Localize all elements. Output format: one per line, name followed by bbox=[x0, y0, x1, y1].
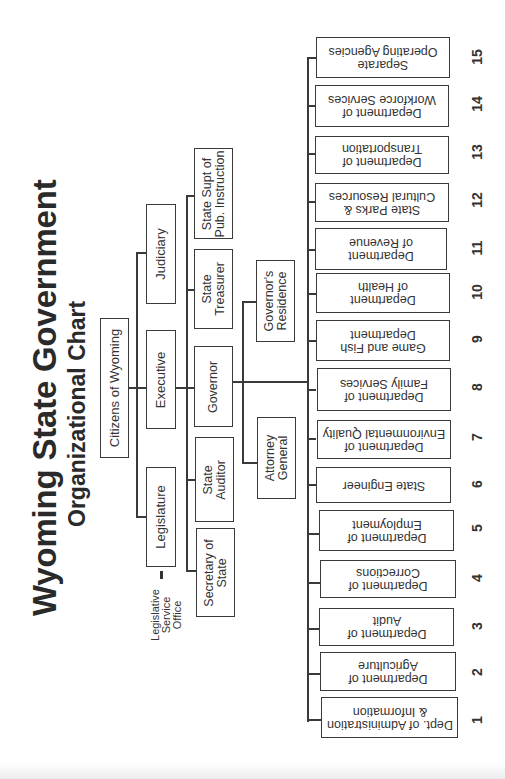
department-number: 6 bbox=[467, 472, 487, 496]
department-label: Department of Audit bbox=[347, 614, 426, 640]
page-bottom-shadow bbox=[0, 762, 505, 779]
department-3: Department of Audit bbox=[319, 608, 454, 646]
node-state-auditor: State Auditor bbox=[195, 437, 234, 522]
connector-attorney-general bbox=[242, 462, 257, 464]
connector-dept-15 bbox=[307, 57, 316, 59]
department-number: 9 bbox=[467, 327, 487, 351]
node-executive: Executive bbox=[146, 330, 176, 429]
department-label: Department of Transportation bbox=[342, 142, 422, 168]
node-label: Secretary of State bbox=[202, 539, 228, 606]
department-number: 13 bbox=[467, 140, 487, 164]
department-label: Department of Employment bbox=[347, 517, 426, 543]
node-secretary-of-state: Secretary of State bbox=[196, 528, 235, 617]
legislative-service-office-label: Legislative Service Office bbox=[150, 589, 183, 641]
connector-dept-8 bbox=[307, 389, 316, 391]
department-2: Department of Agriculture bbox=[320, 652, 456, 691]
branch-spine bbox=[136, 252, 138, 518]
connector-dept-6 bbox=[307, 484, 316, 486]
connector-dept-1 bbox=[307, 719, 321, 721]
connector-dept-10 bbox=[307, 293, 316, 295]
officials-spine bbox=[186, 195, 188, 572]
department-8: Department of Family Services bbox=[317, 368, 451, 411]
department-10: Department of Health bbox=[316, 273, 450, 313]
node-label: Governor's Residence bbox=[262, 271, 288, 332]
department-9: Game and Fish Department bbox=[316, 320, 450, 361]
connector-dept-7 bbox=[307, 438, 316, 440]
department-label: Department of Agriculture bbox=[348, 658, 427, 684]
department-label: Department of Family Services bbox=[340, 376, 428, 402]
connector-dept-3 bbox=[307, 628, 319, 630]
legislature-lso-dash bbox=[160, 571, 163, 579]
department-6: State Engineer bbox=[316, 467, 451, 503]
node-state-treasurer: State Treasurer bbox=[194, 249, 233, 329]
node-label: State Supt of Pub. Instruction bbox=[200, 150, 226, 237]
node-label: State Auditor bbox=[201, 460, 227, 500]
department-11: Department of Revenue bbox=[315, 228, 447, 270]
node-label: Citizens of Wyoming bbox=[108, 329, 122, 447]
chart-subtitle: Organizational Chart bbox=[64, 301, 91, 527]
department-label: Department of Environmental Quality bbox=[323, 426, 445, 452]
node-label: Governor bbox=[207, 360, 220, 412]
department-5: Department of Employment bbox=[319, 510, 454, 551]
department-label: Separate Operating Agencies bbox=[328, 44, 437, 70]
department-label: Game and Fish Department bbox=[340, 327, 425, 353]
department-label: Department of Health bbox=[350, 280, 415, 306]
department-number: 7 bbox=[467, 425, 487, 449]
node-label: Legislature bbox=[154, 485, 168, 549]
governor-staff-spine bbox=[242, 301, 244, 464]
connector-judiciary bbox=[136, 252, 146, 254]
department-7: Department of Environmental Quality bbox=[317, 420, 451, 459]
department-label: Department of Revenue bbox=[348, 236, 413, 262]
node-governors-residence: Governor's Residence bbox=[256, 260, 295, 342]
department-12: State Parks & Cultural Resources bbox=[315, 183, 449, 222]
connector-state-auditor bbox=[186, 479, 195, 481]
department-1: Dept. of Administration & Information bbox=[321, 697, 458, 738]
department-label: State Engineer bbox=[342, 478, 425, 491]
connector-dept-4 bbox=[307, 582, 320, 584]
node-judiciary: Judiciary bbox=[146, 204, 176, 304]
department-label: Dept. of Administration & Information bbox=[327, 704, 453, 730]
department-15: Separate Operating Agencies bbox=[316, 37, 450, 78]
department-number: 11 bbox=[467, 236, 487, 260]
node-label: State Treasurer bbox=[200, 262, 226, 316]
department-number: 14 bbox=[467, 92, 487, 116]
chart-title: Wyoming State Government bbox=[26, 180, 64, 617]
node-label: Judiciary bbox=[154, 228, 168, 279]
department-number: 3 bbox=[467, 614, 487, 638]
department-number: 2 bbox=[467, 660, 487, 684]
node-state-supt-pub-instruction: State Supt of Pub. Instruction bbox=[194, 148, 233, 239]
node-citizens-of-wyoming: Citizens of Wyoming bbox=[100, 318, 129, 458]
department-14: Department of Workforce Services bbox=[315, 85, 449, 127]
department-number: 4 bbox=[467, 566, 487, 590]
connector-dept-2 bbox=[307, 673, 320, 675]
department-number: 12 bbox=[467, 188, 487, 212]
department-label: Department of Corrections bbox=[348, 566, 427, 592]
department-number: 5 bbox=[467, 516, 487, 540]
node-legislature: Legislature bbox=[146, 467, 176, 567]
department-number: 8 bbox=[467, 375, 487, 399]
connector-secretary-of-state bbox=[186, 570, 196, 572]
connector-dept-5 bbox=[307, 533, 319, 535]
node-governor: Governor bbox=[194, 346, 233, 427]
connector-dept-9 bbox=[307, 340, 316, 342]
department-4: Department of Corrections bbox=[320, 560, 456, 598]
department-number: 1 bbox=[467, 708, 487, 732]
department-number: 10 bbox=[467, 280, 487, 304]
node-label: Executive bbox=[154, 351, 168, 407]
department-label: State Parks & Cultural Resources bbox=[329, 189, 435, 215]
department-13: Department of Transportation bbox=[315, 136, 449, 174]
node-attorney-general: Attorney General bbox=[257, 417, 296, 499]
department-number: 15 bbox=[467, 45, 487, 69]
connector-legislature bbox=[136, 516, 146, 518]
connector-executive-officials bbox=[175, 387, 194, 389]
connector-governor-departments bbox=[233, 381, 308, 383]
department-label: Department of Workforce Services bbox=[328, 93, 436, 119]
connector-governors-residence bbox=[242, 301, 256, 303]
node-label: Attorney General bbox=[263, 435, 289, 482]
